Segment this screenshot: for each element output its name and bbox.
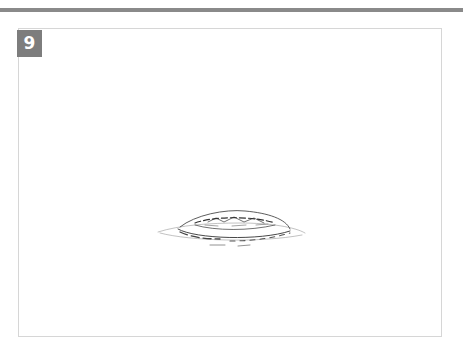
illustration-frame [18, 28, 442, 337]
step-number-badge: 9 [17, 30, 42, 57]
top-divider [0, 8, 463, 12]
sketch-of-flat-round-loaf-icon [150, 195, 310, 255]
